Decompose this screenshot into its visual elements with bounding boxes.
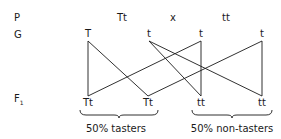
group-braces <box>0 0 281 139</box>
brace <box>192 110 272 118</box>
caption-tasters: 50% tasters <box>86 124 146 134</box>
genetic-cross-diagram: P G F1 Tt x tt T t t t Tt Tt tt tt 50% t… <box>0 0 281 139</box>
brace <box>80 110 158 118</box>
caption-non-tasters: 50% non-tasters <box>191 124 273 134</box>
